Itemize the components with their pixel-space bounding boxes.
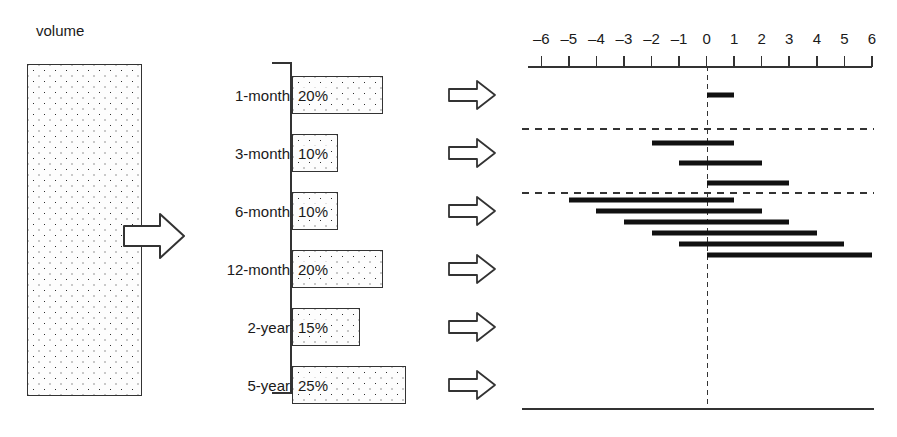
axis-tick	[761, 56, 763, 67]
percentage-bar: 20%	[292, 76, 383, 114]
right-arrow-icon	[446, 310, 498, 344]
axis-tick	[541, 56, 543, 67]
confidence-interval-bar	[652, 141, 735, 146]
axis-tick-label: –3	[616, 30, 633, 47]
axis-tick-label: 2	[758, 30, 766, 47]
confidence-interval-bar	[652, 231, 817, 236]
category-label: 6-month	[235, 203, 290, 220]
axis-tick	[623, 56, 625, 67]
axis-tick	[651, 56, 653, 67]
middle-axis-top-cap	[272, 62, 292, 64]
axis-tick	[844, 56, 846, 67]
axis-tick	[596, 56, 598, 67]
percentage-bar: 10%	[292, 192, 338, 230]
percentage-label: 10%	[297, 146, 329, 161]
percentage-label: 10%	[297, 204, 329, 219]
axis-tick-label: 4	[813, 30, 821, 47]
right-arrow-icon	[446, 194, 498, 228]
axis-tick-label: 3	[785, 30, 793, 47]
middle-bar-chart: 20%10%10%20%15%25%	[290, 0, 440, 437]
category-label: 3-month	[235, 145, 290, 162]
confidence-interval-bar	[679, 161, 762, 166]
confidence-interval-bar	[707, 181, 790, 186]
axis-tick	[816, 56, 818, 67]
axis-tick-label: –6	[533, 30, 550, 47]
axis-tick-label: 1	[730, 30, 738, 47]
axis-tick-label: 0	[702, 30, 710, 47]
category-label: 12-month	[227, 261, 290, 278]
middle-axis-bottom-cap	[272, 392, 292, 394]
axis-tick-label: 5	[840, 30, 848, 47]
axis-tick	[568, 56, 570, 67]
axis-line	[528, 66, 872, 68]
group-separator	[522, 128, 874, 130]
category-label-column: 1-month3-month6-month12-month2-year5-yea…	[212, 0, 290, 437]
axis-tick	[733, 56, 735, 67]
confidence-interval-bar	[707, 253, 872, 258]
zero-reference-line	[707, 66, 709, 410]
category-label: 1-month	[235, 87, 290, 104]
baseline	[522, 408, 874, 410]
group-separator	[522, 192, 874, 194]
axis-tick	[678, 56, 680, 67]
axis-tick	[788, 56, 790, 67]
percentage-bar: 25%	[292, 366, 406, 404]
percentage-label: 20%	[297, 88, 329, 103]
axis-tick	[706, 56, 708, 67]
confidence-interval-bar	[596, 209, 761, 214]
category-label: 2-year	[247, 319, 290, 336]
confidence-interval-bar	[624, 220, 789, 225]
axis-tick-label: –1	[671, 30, 688, 47]
confidence-interval-bar	[679, 242, 844, 247]
figure-canvas: volume 1-month3-month6-month12-month2-ye…	[0, 0, 897, 437]
right-arrow-icon	[446, 252, 498, 286]
percentage-bar: 20%	[292, 250, 383, 288]
percentage-label: 20%	[297, 262, 329, 277]
axis-tick-label: –2	[643, 30, 660, 47]
volume-label: volume	[36, 22, 84, 39]
percentage-bar: 10%	[292, 134, 338, 172]
percentage-label: 25%	[297, 378, 329, 393]
right-arrow-icon	[446, 78, 498, 112]
percentage-bar: 15%	[292, 308, 360, 346]
right-arrow-icon	[446, 368, 498, 402]
confidence-interval-bar	[569, 198, 734, 203]
category-label: 5-year	[247, 377, 290, 394]
axis-tick-label: 6	[868, 30, 876, 47]
confidence-interval-bar	[707, 93, 735, 98]
axis-tick-label: –4	[588, 30, 605, 47]
right-arrow-icon	[120, 208, 188, 264]
forest-plot: –6–5–4–3–2–10123456	[500, 0, 897, 437]
axis-tick-label: –5	[561, 30, 578, 47]
axis-tick	[871, 56, 873, 67]
right-arrow-icon	[446, 136, 498, 170]
percentage-label: 15%	[297, 320, 329, 335]
